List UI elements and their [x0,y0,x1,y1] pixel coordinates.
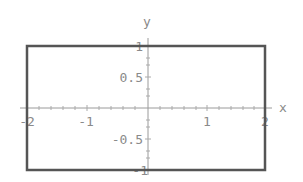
x-tick-label-1: 1 [203,114,211,129]
y-axis-label: y [143,14,151,29]
y-tick-label-neg0.5: -0.5 [112,132,143,147]
rectangle-plot: -2 -1 1 2 1 0.5 -0.5 -1 y x [0,0,303,182]
x-tick-label-neg1: -1 [78,114,94,129]
x-axis-label: x [279,100,287,115]
y-tick-label-0.5: 0.5 [120,70,143,85]
